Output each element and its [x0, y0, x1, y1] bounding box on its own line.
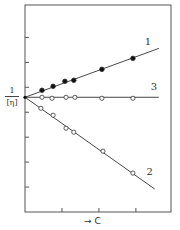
intercept-point	[23, 96, 26, 99]
data-point-series-2	[51, 113, 55, 117]
data-point-series-1	[40, 88, 45, 93]
data-point-series-3	[50, 96, 54, 100]
data-point-series-2	[72, 130, 76, 134]
y-axis-label-numerator: 1	[5, 86, 19, 97]
axis-ticks	[25, 37, 136, 212]
data-point-series-3	[100, 96, 104, 100]
x-axis-label: → C	[84, 216, 101, 226]
data-points	[23, 56, 135, 175]
y-axis-label-denominator: [η]	[2, 97, 22, 107]
data-point-series-1	[131, 56, 136, 61]
data-point-series-2	[64, 126, 68, 130]
data-point-series-1	[63, 79, 68, 84]
series-label-3: 3	[151, 81, 157, 92]
data-point-series-2	[39, 106, 43, 110]
series-label-2: 2	[147, 166, 153, 177]
data-point-series-3	[64, 95, 68, 99]
data-point-series-2	[101, 149, 105, 153]
data-point-series-3	[40, 95, 44, 99]
data-point-series-1	[71, 78, 76, 83]
series-line-1	[25, 48, 159, 97]
series-label-1: 1	[145, 36, 151, 47]
chart-canvas: 132	[0, 0, 180, 230]
data-point-series-3	[73, 95, 77, 99]
series-labels: 132	[145, 36, 157, 177]
data-point-series-1	[100, 67, 105, 72]
y-axis-label: 1 [η]	[2, 86, 22, 107]
data-point-series-1	[51, 84, 56, 89]
data-point-series-2	[131, 171, 135, 175]
data-point-series-3	[131, 96, 135, 100]
series-line-2	[25, 97, 155, 189]
series-lines	[25, 48, 159, 189]
